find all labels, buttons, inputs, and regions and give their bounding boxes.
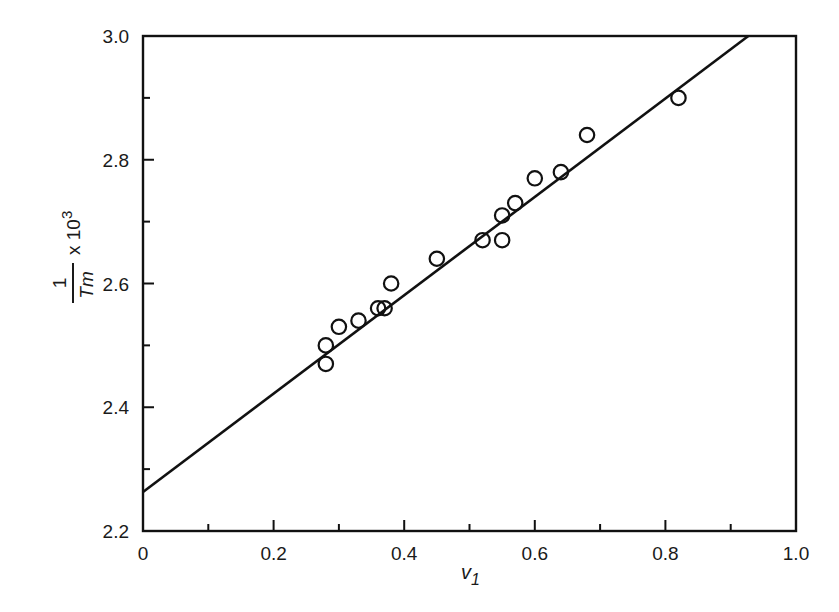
x-axis-label: v1: [461, 561, 480, 588]
data-point: [528, 171, 542, 185]
y-axis-label: 1 Tm x 103: [49, 211, 97, 303]
data-point: [430, 252, 444, 266]
regression-line: [143, 36, 748, 492]
svg-text:1: 1: [49, 278, 70, 289]
data-points: [319, 91, 686, 371]
data-point: [580, 128, 594, 142]
x-tick-labels: 00.20.40.60.81.0: [138, 543, 810, 564]
y-tick-label: 2.2: [103, 521, 129, 542]
axis-ticks: [143, 98, 731, 531]
data-point: [351, 313, 365, 327]
y-tick-label: 3.0: [103, 26, 129, 47]
y-tick-label: 2.6: [103, 274, 129, 295]
x-tick-label: 0.4: [391, 543, 418, 564]
fit-line: [143, 36, 748, 492]
x-tick-label: 0: [138, 543, 149, 564]
x-tick-label: 0.6: [522, 543, 548, 564]
data-point: [495, 233, 509, 247]
data-point: [671, 91, 685, 105]
y-tick-label: 2.8: [103, 150, 129, 171]
data-point: [508, 196, 522, 210]
x-tick-label: 1.0: [783, 543, 809, 564]
data-point: [384, 276, 398, 290]
svg-text:x 103: x 103: [58, 211, 84, 255]
plot-frame: [143, 36, 796, 531]
data-point: [319, 338, 333, 352]
y-tick-labels: 2.22.42.62.83.0: [103, 26, 130, 542]
y-tick-label: 2.4: [103, 397, 130, 418]
scatter-chart: 00.20.40.60.81.0 2.22.42.62.83.0 v1 1 Tm…: [0, 0, 839, 612]
svg-text:Tm: Tm: [76, 271, 97, 298]
x-tick-label: 0.2: [260, 543, 286, 564]
data-point: [319, 357, 333, 371]
data-point: [332, 320, 346, 334]
x-tick-label: 0.8: [652, 543, 678, 564]
